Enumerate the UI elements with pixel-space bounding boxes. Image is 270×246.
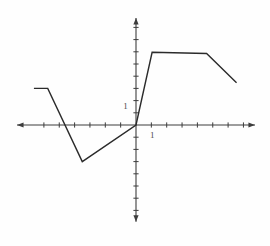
y-axis-bottom-arrow-icon (133, 215, 138, 222)
x-axis-left-arrow-icon (17, 122, 24, 127)
function-graph: 11 (0, 0, 270, 246)
figure-container: 11 (0, 0, 270, 246)
y-axis-tick-label: 1 (123, 101, 128, 111)
x-axis-right-arrow-icon (248, 122, 255, 127)
y-axis-top-arrow-icon (133, 18, 138, 25)
curve-piecewise-linear-curve (34, 52, 237, 161)
x-axis-tick-label: 1 (150, 130, 155, 140)
